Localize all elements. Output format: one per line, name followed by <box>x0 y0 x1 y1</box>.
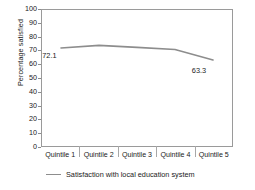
y-axis-tick-mark <box>38 119 41 120</box>
y-axis-tick-label: 0 <box>13 143 37 150</box>
y-axis-tick-mark <box>38 78 41 79</box>
y-axis-tick-mark <box>38 37 41 38</box>
y-axis-tick-mark <box>38 106 41 107</box>
x-axis-categories: Quintile 1Quintile 2Quintile 3Quintile 4… <box>41 148 233 162</box>
y-axis-tick-label: 80 <box>13 33 37 40</box>
series-line-satisfaction <box>42 10 232 146</box>
line-chart: Percentage satisfied 1009080706050403020… <box>0 0 255 190</box>
y-axis-tick-mark <box>38 133 41 134</box>
x-axis-category-5: Quintile 5 <box>195 148 233 162</box>
y-axis-tick-mark <box>38 64 41 65</box>
plot-area <box>41 9 233 147</box>
y-axis-tick-label: 70 <box>13 47 37 54</box>
y-axis-tick-label: 90 <box>13 19 37 26</box>
y-axis-tick-label: 40 <box>13 88 37 95</box>
y-axis-tick-label: 100 <box>13 5 37 12</box>
x-axis-category-4: Quintile 4 <box>156 148 194 162</box>
y-axis-tick-label: 30 <box>13 102 37 109</box>
x-axis-category-1: Quintile 1 <box>41 148 79 162</box>
chart-legend: Satisfaction with local education system <box>41 170 251 179</box>
y-axis-tick-mark <box>38 92 41 93</box>
y-axis-tick-label: 60 <box>13 61 37 68</box>
data-point-label: 72.1 <box>42 52 56 60</box>
y-axis-tick-label: 10 <box>13 130 37 137</box>
y-axis-tick-label: 50 <box>13 74 37 81</box>
y-axis-tick-labels: 1009080706050403020100 <box>13 9 37 147</box>
y-axis-tick-mark <box>38 9 41 10</box>
x-axis-category-3: Quintile 3 <box>118 148 156 162</box>
y-axis-tick-mark <box>38 147 41 148</box>
y-axis-tick-mark <box>38 23 41 24</box>
y-axis-tick-mark <box>38 50 41 51</box>
data-point-label: 63.3 <box>192 67 206 75</box>
y-axis-tick-label: 20 <box>13 116 37 123</box>
legend-line-swatch <box>46 174 61 175</box>
x-axis-category-2: Quintile 2 <box>79 148 117 162</box>
legend-label-satisfaction: Satisfaction with local education system <box>66 170 195 179</box>
